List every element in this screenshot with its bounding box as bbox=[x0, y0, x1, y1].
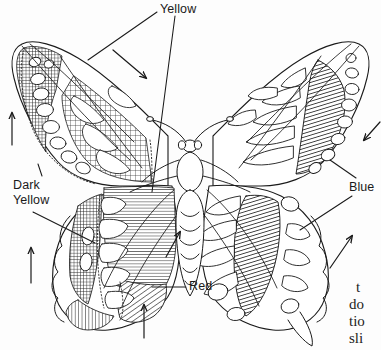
butterfly-figure: Yellow Dark Yellow Red Blue t do tio sli bbox=[0, 0, 381, 350]
label-dark-yellow-line2: Yellow bbox=[13, 193, 49, 208]
arrow-top-center bbox=[113, 50, 146, 78]
left-forewing bbox=[12, 42, 168, 186]
label-yellow: Yellow bbox=[160, 2, 196, 17]
leader-blue-hindwing bbox=[300, 196, 352, 230]
arrow-right-hind bbox=[330, 236, 352, 268]
page-text-fragment-4: sli bbox=[349, 330, 363, 348]
label-dark-yellow-line1: Dark bbox=[13, 178, 40, 193]
leader-yellow-forewing bbox=[88, 12, 157, 60]
label-red: Red bbox=[189, 279, 212, 294]
leader-blue-forewing bbox=[330, 160, 356, 178]
left-hindwing bbox=[52, 185, 180, 330]
right-hindwing bbox=[196, 185, 329, 346]
leader-darkyellow-forewing bbox=[38, 164, 42, 176]
page-text-fragment-1: t bbox=[356, 279, 360, 297]
label-blue: Blue bbox=[349, 180, 374, 195]
page-text-fragment-2: do bbox=[349, 296, 364, 314]
page-text-fragment-3: tio bbox=[349, 313, 365, 331]
right-forewing bbox=[213, 42, 369, 186]
arrow-right-edge bbox=[364, 122, 380, 140]
butterfly-illustration bbox=[0, 0, 381, 350]
